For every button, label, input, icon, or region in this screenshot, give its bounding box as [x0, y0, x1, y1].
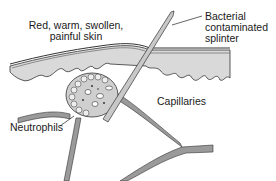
label-neutrophils: Neutrophils	[10, 122, 63, 133]
label-capillaries: Capillaries	[157, 96, 206, 107]
inflammation-diagram: Red, warm, swollen, painful skin Bacteri…	[0, 0, 276, 181]
label-splinter: Bacterial contaminated splinter	[205, 11, 268, 44]
skin-layer	[10, 44, 230, 81]
label-skin: Red, warm, swollen, painful skin	[26, 20, 126, 42]
